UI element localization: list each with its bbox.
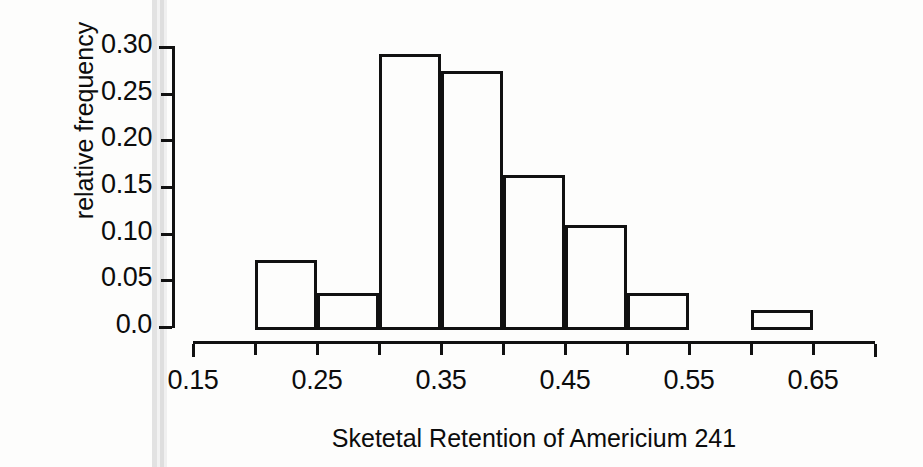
x-axis-tick (812, 344, 815, 355)
y-axis-tick (161, 93, 172, 96)
y-axis-tick-label: 0.05 (52, 262, 152, 293)
x-axis-tick (750, 344, 753, 355)
y-axis-tick-label: 0.0 (52, 309, 152, 340)
y-axis-tick (161, 139, 172, 142)
x-axis-tick-label: 0.55 (629, 365, 749, 396)
y-axis-line (172, 46, 175, 328)
histogram-bar (255, 260, 317, 330)
histogram-bar (627, 293, 689, 330)
plot-area: 0.300.250.200.150.100.050.0 relative fre… (0, 0, 923, 467)
y-axis-tick-label: 0.30 (52, 29, 152, 60)
x-axis-tick-label: 0.15 (133, 365, 253, 396)
x-axis-tick (564, 344, 567, 355)
x-axis-tick (378, 344, 381, 355)
x-axis-tick (254, 344, 257, 355)
x-axis-tick (874, 344, 877, 357)
x-axis-tick (316, 344, 319, 355)
histogram-figure: 0.300.250.200.150.100.050.0 relative fre… (0, 0, 923, 467)
y-axis-tick-label: 0.15 (52, 169, 152, 200)
x-axis-tick-label: 0.65 (753, 365, 873, 396)
x-axis-tick (192, 344, 195, 357)
histogram-bar (441, 71, 503, 330)
y-axis-tick-label: 0.25 (52, 76, 152, 107)
y-axis-tick (159, 326, 172, 329)
x-axis-line (193, 341, 875, 344)
histogram-bar (751, 310, 813, 330)
x-axis-tick-label: 0.25 (257, 365, 377, 396)
x-axis-title: Sketetal Retention of Americium 241 (193, 424, 875, 453)
histogram-bar (565, 225, 627, 330)
histogram-bar (317, 293, 379, 330)
x-axis-tick (440, 344, 443, 355)
y-axis-tick-label: 0.10 (52, 216, 152, 247)
x-axis-tick-label: 0.45 (505, 365, 625, 396)
y-axis-tick (161, 279, 172, 282)
y-axis-tick (159, 46, 172, 49)
y-axis-tick (161, 233, 172, 236)
y-axis-title: relative frequency (70, 0, 99, 271)
y-axis-tick-label: 0.20 (52, 122, 152, 153)
y-axis-tick (161, 186, 172, 189)
histogram-bar (503, 175, 565, 330)
x-axis-tick (688, 344, 691, 355)
histogram-bar (379, 54, 441, 330)
x-axis-tick (626, 344, 629, 355)
x-axis-tick-label: 0.35 (381, 365, 501, 396)
x-axis-tick (502, 344, 505, 355)
